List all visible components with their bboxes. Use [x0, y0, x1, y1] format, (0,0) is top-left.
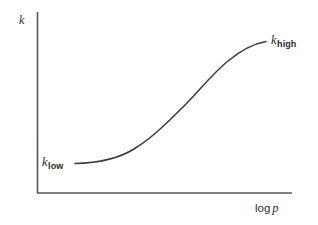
k-low-symbol: k	[42, 155, 48, 169]
figure-container: k logp klow khigh	[0, 0, 318, 225]
k-low-subscript: low	[48, 161, 63, 171]
k-low-annotation: klow	[42, 156, 63, 169]
x-axis-label-prefix: log	[255, 202, 270, 214]
k-high-symbol: k	[271, 33, 277, 47]
sigmoid-curve	[75, 42, 266, 164]
y-axis-label-text: k	[19, 13, 24, 27]
x-axis-label: logp	[255, 202, 279, 215]
x-axis-label-variable: p	[272, 201, 278, 215]
k-high-subscript: high	[277, 39, 296, 49]
y-axis-label: k	[19, 14, 24, 26]
k-high-annotation: khigh	[271, 34, 296, 47]
